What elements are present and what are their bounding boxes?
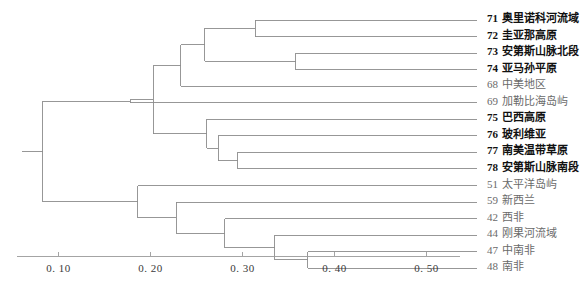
leaf-name: 巴西高原 xyxy=(502,111,546,123)
leaf-id: 59 xyxy=(481,195,498,206)
tick-label-2: 0. 30 xyxy=(230,263,255,274)
leaf-label-59: 59新西兰 xyxy=(481,195,535,206)
tick-label-3: 0. 40 xyxy=(322,263,347,274)
leaf-id: 76 xyxy=(481,129,498,140)
leaf-name: 南美温带草原 xyxy=(502,144,568,156)
leaf-id: 47 xyxy=(481,245,498,256)
dendrogram-figure: 71奥里诺科河流域72圭亚那高原73安第斯山脉北段74亚马孙平原68中美地区69… xyxy=(0,0,580,288)
leaf-label-68: 68中美地区 xyxy=(481,79,546,90)
leaf-label-78: 78安第斯山脉南段 xyxy=(481,162,579,173)
leaf-name: 圭亚那高原 xyxy=(502,29,557,41)
x-axis xyxy=(17,252,460,256)
leaf-label-71: 71奥里诺科河流域 xyxy=(481,13,579,24)
leaf-label-72: 72圭亚那高原 xyxy=(481,30,557,41)
leaf-name: 新西兰 xyxy=(502,194,535,206)
leaf-label-73: 73安第斯山脉北段 xyxy=(481,46,579,57)
leaf-label-76: 76玻利维亚 xyxy=(481,129,546,140)
leaf-name: 安第斯山脉南段 xyxy=(502,161,579,173)
leaf-name: 西非 xyxy=(502,211,524,223)
leaf-name: 中南非 xyxy=(502,244,535,256)
leaf-name: 南非 xyxy=(502,260,524,272)
leaf-label-42: 42西非 xyxy=(481,212,524,223)
leaf-id: 74 xyxy=(481,63,498,74)
tick-label-4: 0. 50 xyxy=(414,263,439,274)
leaf-name: 刚果河流域 xyxy=(502,227,557,239)
leaf-id: 42 xyxy=(481,212,498,223)
leaf-label-74: 74亚马孙平原 xyxy=(481,63,557,74)
leaf-id: 44 xyxy=(481,228,498,239)
leaf-label-47: 47中南非 xyxy=(481,245,535,256)
leaf-name: 太平洋岛屿 xyxy=(502,178,557,190)
leaf-label-48: 48南非 xyxy=(481,261,524,272)
leaf-name: 玻利维亚 xyxy=(502,128,546,140)
leaf-label-69: 69加勒比海岛屿 xyxy=(481,96,568,107)
leaf-id: 71 xyxy=(481,13,498,24)
leaf-name: 亚马孙平原 xyxy=(502,62,557,74)
dendrogram-branches xyxy=(22,20,477,268)
leaf-id: 51 xyxy=(481,179,498,190)
leaf-id: 69 xyxy=(481,96,498,107)
leaf-label-75: 75巴西高原 xyxy=(481,112,546,123)
leaf-id: 72 xyxy=(481,30,498,41)
leaf-label-51: 51太平洋岛屿 xyxy=(481,179,557,190)
leaf-name: 奥里诺科河流域 xyxy=(502,12,579,24)
leaf-name: 安第斯山脉北段 xyxy=(502,45,579,57)
leaf-id: 68 xyxy=(481,79,498,90)
leaf-id: 77 xyxy=(481,145,498,156)
leaf-label-77: 77南美温带草原 xyxy=(481,145,568,156)
leaf-id: 78 xyxy=(481,162,498,173)
tick-label-0: 0. 10 xyxy=(46,263,71,274)
leaf-id: 73 xyxy=(481,46,498,57)
leaf-id: 75 xyxy=(481,112,498,123)
leaf-id: 48 xyxy=(481,261,498,272)
leaf-label-44: 44刚果河流域 xyxy=(481,228,557,239)
leaf-name: 加勒比海岛屿 xyxy=(502,95,568,107)
leaf-name: 中美地区 xyxy=(502,78,546,90)
tick-label-1: 0. 20 xyxy=(138,263,163,274)
